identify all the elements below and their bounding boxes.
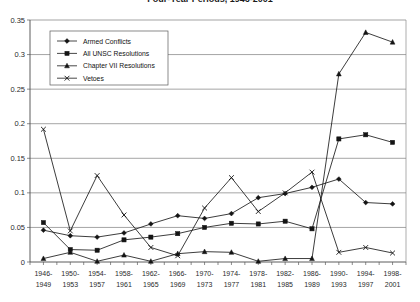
x-tick-label-end-year: 1977 xyxy=(224,281,240,288)
data-point-square xyxy=(337,137,341,141)
data-point-diamond xyxy=(390,202,395,207)
x-tick-label-start-year: 1958- xyxy=(115,270,134,277)
x-tick-label-start-year: 1970- xyxy=(196,270,215,277)
x-tick-label-end-year: 1965 xyxy=(143,281,159,288)
series-armed-conflicts xyxy=(41,177,395,240)
data-point-cross xyxy=(68,228,73,233)
x-tick-label-start-year: 1998- xyxy=(384,270,403,277)
x-tick-label-end-year: 1949 xyxy=(36,281,52,288)
x-tick-label-end-year: 2001 xyxy=(385,281,401,288)
x-tick-label-start-year: 1994- xyxy=(357,270,376,277)
chart-legend: Armed ConflictsAll UNSC ResolutionsChapt… xyxy=(50,31,168,85)
x-tick-label-end-year: 1985 xyxy=(277,281,293,288)
data-point-triangle xyxy=(363,30,368,35)
y-axis-tick-labels: 00.050.10.150.20.250.30.35 xyxy=(10,16,25,267)
data-point-square xyxy=(202,225,206,229)
x-axis-ticks xyxy=(30,262,406,265)
data-point-cross xyxy=(95,173,100,178)
chart-container: Four-Year Periods, 1946-2001 00.050.10.1… xyxy=(0,0,420,302)
x-tick-label-end-year: 1957 xyxy=(89,281,105,288)
data-point-square xyxy=(65,51,69,55)
x-tick-label-end-year: 1981 xyxy=(250,281,266,288)
data-point-diamond xyxy=(229,211,234,216)
data-point-cross xyxy=(229,175,234,180)
data-point-diamond xyxy=(148,222,153,227)
data-point-square xyxy=(390,140,394,144)
data-point-square xyxy=(310,227,314,231)
legend-label: Chapter VII Resolutions xyxy=(83,62,155,70)
x-tick-label-end-year: 1953 xyxy=(62,281,78,288)
x-tick-label-end-year: 1973 xyxy=(197,281,213,288)
data-point-cross xyxy=(122,213,127,218)
y-tick-label: 0.05 xyxy=(10,223,25,232)
x-tick-label-end-year: 1997 xyxy=(358,281,374,288)
data-point-diamond xyxy=(95,235,100,240)
data-point-square xyxy=(149,235,153,239)
data-point-diamond xyxy=(202,216,207,221)
data-point-square xyxy=(176,232,180,236)
data-point-square xyxy=(256,222,260,226)
data-point-cross xyxy=(310,170,315,175)
legend-label: Vetoes xyxy=(83,75,104,82)
x-tick-label-start-year: 1982- xyxy=(276,270,295,277)
chart-plot-area: 00.050.10.150.20.250.30.35 1946-19491950… xyxy=(0,0,420,302)
data-point-square xyxy=(364,133,368,137)
data-point-diamond xyxy=(122,231,127,236)
data-point-square xyxy=(95,248,99,252)
x-tick-label-start-year: 1946- xyxy=(34,270,53,277)
x-tick-label-start-year: 1990- xyxy=(330,270,349,277)
x-tick-label-start-year: 1978- xyxy=(249,270,268,277)
y-tick-label: 0 xyxy=(21,258,25,267)
legend-label: Armed Conflicts xyxy=(83,38,132,45)
x-tick-label-start-year: 1950- xyxy=(61,270,80,277)
data-point-square xyxy=(283,219,287,223)
data-point-diamond xyxy=(175,213,180,218)
data-point-diamond xyxy=(256,195,261,200)
x-tick-label-start-year: 1974- xyxy=(222,270,241,277)
y-tick-label: 0.35 xyxy=(10,16,25,25)
series-line xyxy=(43,179,392,237)
data-point-cross xyxy=(256,209,261,214)
data-point-triangle xyxy=(122,252,127,257)
y-tick-label: 0.15 xyxy=(10,154,25,163)
x-tick-label-start-year: 1962- xyxy=(142,270,161,277)
y-tick-label: 0.1 xyxy=(15,188,25,197)
y-tick-label: 0.3 xyxy=(15,50,25,59)
data-point-cross xyxy=(202,206,207,211)
x-tick-label-end-year: 1969 xyxy=(170,281,186,288)
x-tick-label-end-year: 1989 xyxy=(304,281,320,288)
data-point-square xyxy=(229,221,233,225)
x-tick-label-start-year: 1954- xyxy=(88,270,107,277)
data-point-cross xyxy=(41,127,46,132)
x-tick-label-start-year: 1986- xyxy=(303,270,322,277)
x-tick-label-end-year: 1961 xyxy=(116,281,132,288)
x-tick-label-start-year: 1966- xyxy=(169,270,188,277)
data-point-diamond xyxy=(41,228,46,233)
data-point-square xyxy=(41,220,45,224)
y-tick-label: 0.25 xyxy=(10,85,25,94)
data-point-square xyxy=(122,238,126,242)
data-point-diamond xyxy=(68,233,73,238)
y-tick-label: 0.2 xyxy=(15,119,25,128)
legend-label: All UNSC Resolutions xyxy=(83,50,150,57)
data-point-diamond xyxy=(310,185,315,190)
data-point-cross xyxy=(148,245,153,250)
x-axis-tick-labels: 1946-19491950-19531954-19571958-19611962… xyxy=(34,270,402,288)
x-tick-label-end-year: 1993 xyxy=(331,281,347,288)
